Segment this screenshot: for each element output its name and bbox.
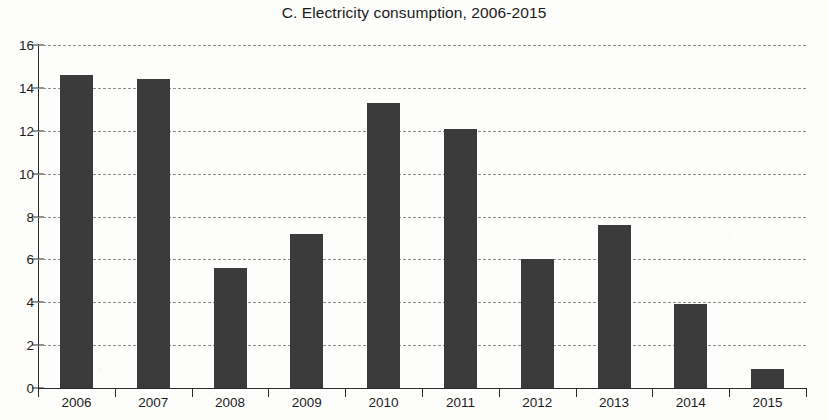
x-tick-label: 2014 xyxy=(652,395,729,410)
x-tick-label: 2008 xyxy=(192,395,269,410)
x-tick-label: 2015 xyxy=(729,395,806,410)
chart-title: C. Electricity consumption, 2006-2015 xyxy=(0,4,828,22)
y-tick-label: 10 xyxy=(0,166,34,181)
y-tick-label: 6 xyxy=(0,252,34,267)
x-tick-label: 2006 xyxy=(38,395,115,410)
x-tick-mark xyxy=(806,388,807,397)
y-tick-label: 8 xyxy=(0,209,34,224)
bar xyxy=(751,369,784,388)
y-tick-label: 16 xyxy=(0,38,34,53)
bar xyxy=(290,234,323,388)
x-tick-label: 2012 xyxy=(499,395,576,410)
bar xyxy=(137,79,170,388)
x-tick-label: 2009 xyxy=(268,395,345,410)
x-tick-label: 2007 xyxy=(115,395,192,410)
bar xyxy=(214,268,247,388)
bar xyxy=(598,225,631,388)
bar xyxy=(60,75,93,388)
y-tick-label: 14 xyxy=(0,80,34,95)
y-tick-label: 2 xyxy=(0,338,34,353)
y-tick-label: 0 xyxy=(0,381,34,396)
x-tick-label: 2011 xyxy=(422,395,499,410)
bar xyxy=(367,103,400,388)
y-tick-label: 4 xyxy=(0,295,34,310)
x-tick-label: 2013 xyxy=(576,395,653,410)
plot-area xyxy=(38,45,806,388)
bar xyxy=(674,304,707,388)
bar-chart: C. Electricity consumption, 2006-2015 02… xyxy=(0,0,828,420)
gridline xyxy=(38,45,806,46)
bar xyxy=(521,259,554,388)
bar xyxy=(444,129,477,388)
x-tick-label: 2010 xyxy=(345,395,422,410)
y-tick-label: 12 xyxy=(0,123,34,138)
